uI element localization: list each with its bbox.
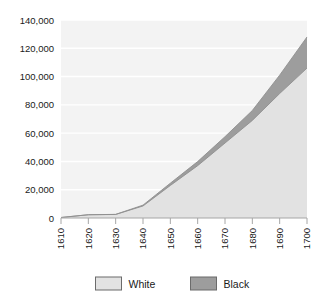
legend-swatch-black	[191, 277, 217, 290]
chart-canvas: 020,00040,00060,00080,000100,000120,0001…	[0, 0, 317, 303]
x-axis-tick-label: 1650	[165, 228, 176, 249]
y-axis-tick-label: 100,000	[20, 71, 54, 82]
x-axis-tick-label: 1630	[110, 228, 121, 249]
y-axis-tick-label: 80,000	[25, 99, 54, 110]
x-axis-tick-label: 1660	[192, 228, 203, 249]
x-axis-tick-label: 1640	[137, 228, 148, 249]
y-axis-tick-label: 120,000	[20, 43, 54, 54]
x-axis-tick-label: 1700	[301, 228, 312, 249]
stacked-area-chart: 020,00040,00060,00080,000100,000120,0001…	[0, 0, 317, 303]
legend-label-black: Black	[224, 278, 250, 290]
y-axis-tick-label: 0	[49, 213, 54, 224]
y-axis-tick-label: 60,000	[25, 128, 54, 139]
x-axis-tick-label: 1610	[55, 228, 66, 249]
x-axis-tick-label: 1620	[83, 228, 94, 249]
legend-swatch-white	[96, 277, 122, 290]
x-axis-tick-label: 1690	[274, 228, 285, 249]
y-axis-tick-label: 40,000	[25, 156, 54, 167]
y-axis-tick-label: 20,000	[25, 184, 54, 195]
legend-label-white: White	[129, 278, 156, 290]
y-axis-tick-label: 140,000	[20, 15, 54, 26]
x-axis-tick-label: 1670	[219, 228, 230, 249]
x-axis-tick-label: 1680	[247, 228, 258, 249]
